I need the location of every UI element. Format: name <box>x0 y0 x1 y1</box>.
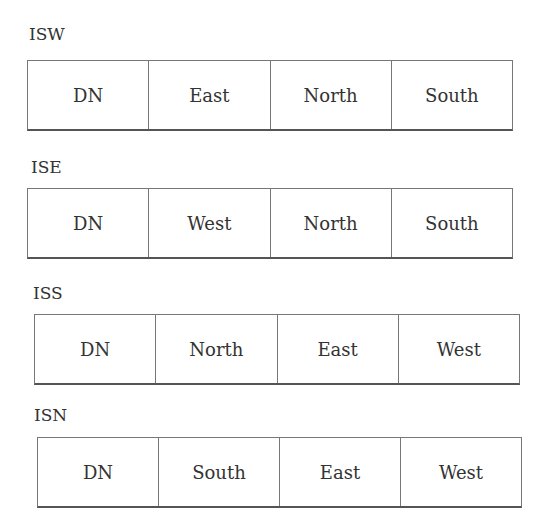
field-cell: DN <box>28 189 149 257</box>
field-cell: South <box>392 189 512 257</box>
field-cell: East <box>278 315 399 383</box>
field-cell: North <box>271 61 392 129</box>
field-row: DN South East West <box>37 437 522 508</box>
field-row: DN North East West <box>34 314 520 385</box>
group-label: ISN <box>34 405 67 425</box>
field-cell: DN <box>28 61 149 129</box>
group-label: ISW <box>29 24 65 44</box>
field-cell: South <box>159 438 280 506</box>
field-row: DN East North South <box>27 60 513 131</box>
field-cell: East <box>149 61 270 129</box>
field-cell: North <box>271 189 392 257</box>
field-cell: North <box>156 315 277 383</box>
group-label: ISS <box>33 283 63 303</box>
field-cell: West <box>399 315 519 383</box>
field-cell: DN <box>35 315 156 383</box>
field-cell: West <box>401 438 521 506</box>
group-label: ISE <box>31 157 62 177</box>
field-row: DN West North South <box>27 188 513 259</box>
field-cell: South <box>392 61 512 129</box>
field-cell: DN <box>38 438 159 506</box>
field-cell: East <box>280 438 401 506</box>
field-cell: West <box>149 189 270 257</box>
